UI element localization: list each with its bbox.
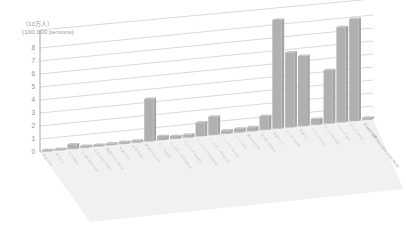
y-axis-tick-label: 4 <box>23 97 35 103</box>
gridline <box>40 67 373 100</box>
bar <box>349 17 361 120</box>
y-axis-tick-label: 6 <box>23 71 35 77</box>
bar <box>183 133 195 137</box>
bar-chart-3d: （10万人） (100,000 persons) 012345678 市区 Ci… <box>0 0 406 233</box>
y-axis-tick-label: 8 <box>23 45 35 51</box>
bar <box>208 115 220 135</box>
y-axis-tick-label: 1 <box>23 136 35 142</box>
bar <box>298 54 310 126</box>
y-axis-tick-label: 0 <box>23 149 35 155</box>
bar <box>285 51 297 127</box>
bar <box>362 116 374 119</box>
gridline <box>40 41 373 74</box>
gridline <box>40 80 373 113</box>
y-axis-tick-label: 3 <box>23 110 35 116</box>
y-axis-unit-english: (100,000 persons) <box>22 28 74 36</box>
bar <box>170 135 182 139</box>
y-axis-tick-label: 7 <box>23 58 35 64</box>
bar <box>157 135 169 140</box>
bar <box>272 19 284 129</box>
gridline <box>40 54 373 87</box>
gridline <box>40 93 373 126</box>
bar <box>324 69 336 124</box>
bar <box>144 98 156 142</box>
gridline <box>40 28 373 61</box>
bar <box>131 139 143 142</box>
bar <box>221 129 233 134</box>
y-axis-tick-label: 2 <box>23 123 35 129</box>
chart-top-edge <box>40 0 393 30</box>
y-axis-tick-label: 5 <box>23 84 35 90</box>
bar <box>119 140 131 143</box>
bar <box>247 126 259 131</box>
gridline <box>40 15 373 48</box>
y-axis-unit-caption: （10万人） (100,000 persons) <box>22 20 74 36</box>
bar <box>195 121 207 136</box>
bar <box>311 117 323 124</box>
bar <box>336 26 348 122</box>
bar <box>260 115 272 130</box>
y-axis-unit-japanese: （10万人） <box>22 20 74 28</box>
bar <box>67 143 79 149</box>
bar <box>234 127 246 132</box>
